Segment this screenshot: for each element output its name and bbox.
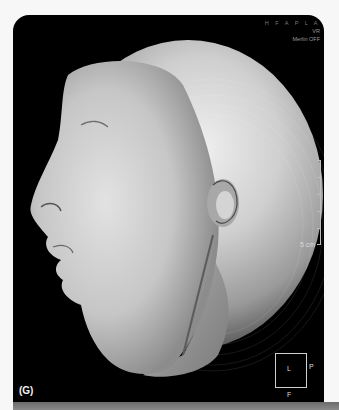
acquisition-info-overlay: H F A P L A VR Merlin OFF <box>265 19 320 43</box>
orientation-left-label: L <box>287 365 291 372</box>
scale-label: 5 cm <box>300 241 315 248</box>
ct-viewer-panel: H F A P L A VR Merlin OFF 5 cm L P F (G) <box>13 15 324 402</box>
figure-panel-label: (G) <box>19 385 33 396</box>
orientation-code-text: H F A P L A <box>265 19 320 27</box>
render-mode-text: VR <box>265 27 320 35</box>
face-volume-render <box>13 15 324 402</box>
orientation-posterior-label: P <box>309 363 314 370</box>
bottom-divider-bar <box>13 402 339 410</box>
orientation-cube-icon: L <box>275 353 307 388</box>
orientation-feet-label: F <box>287 391 291 398</box>
scale-bar <box>320 160 321 245</box>
filter-status-text: Merlin OFF <box>265 35 320 43</box>
